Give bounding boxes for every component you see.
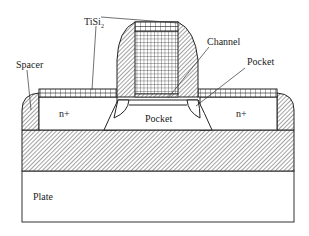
source-region [39,97,117,130]
tisi2-leader-left [92,26,96,90]
source-label: n+ [59,108,70,119]
plate-label: Plate [33,191,54,202]
drain-label: n+ [236,108,247,119]
plate-region [22,171,294,222]
right-spacer [277,93,294,130]
right-silicide [198,89,277,97]
spacer-label: Spacer [16,59,44,70]
pocket-label-center: Pocket [145,113,172,124]
left-spacer [22,93,39,130]
gate-oxide [135,94,178,97]
gate-silicide [135,22,178,31]
buried-oxide-layer [22,130,294,171]
pocket-label-right: Pocket [247,56,274,67]
left-silicide [39,89,117,97]
gate-poly [135,31,178,94]
mosfet-cross-section-diagram: TiSi2 Spacer Channel Pocket Pocket n+ n+… [0,0,309,236]
tisi2-label: TiSi2 [84,16,104,29]
channel-label: Channel [207,36,241,47]
